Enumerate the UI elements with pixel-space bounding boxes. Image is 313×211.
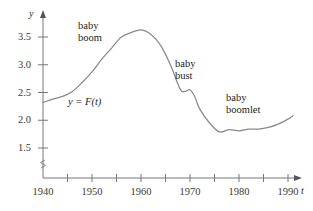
y-tick-label-3-0: 3.0	[7, 59, 31, 71]
x-tick-label-1990: 1990	[271, 186, 305, 198]
y-axis-arrow-icon	[40, 10, 46, 18]
annotation-baby-boomlet-line2: boomlet	[226, 104, 260, 116]
annotation-baby-bust-line1: baby	[175, 58, 195, 70]
y-axis-break-icon	[41, 160, 46, 168]
annotation-baby-boomlet: baby boomlet	[226, 92, 260, 117]
us-birth-rate-figure: y t 3.5 3.0 2.5 2.0 1.5 1940 1950 1960 1…	[0, 0, 313, 211]
x-axis-arrow-icon	[294, 175, 302, 181]
x-tick-label-1940: 1940	[26, 186, 60, 198]
annotation-baby-boom: baby boom	[78, 20, 102, 45]
annotation-baby-bust: baby bust	[175, 58, 195, 83]
x-tick-label-1950: 1950	[75, 186, 109, 198]
curve-equation-label: y = F(t)	[68, 96, 101, 108]
y-tick-label-1-5: 1.5	[7, 142, 31, 154]
x-tick-label-1960: 1960	[124, 186, 158, 198]
y-tick-label-2-5: 2.5	[7, 87, 31, 99]
annotation-baby-boomlet-line1: baby	[226, 92, 260, 104]
y-tick-label-2-0: 2.0	[7, 114, 31, 126]
annotation-baby-bust-line2: bust	[175, 70, 195, 82]
annotation-baby-boom-line1: baby	[78, 20, 102, 32]
x-tick-label-1970: 1970	[173, 186, 207, 198]
y-tick-label-3-5: 3.5	[7, 31, 31, 43]
chart-canvas	[0, 0, 313, 211]
x-tick-label-1980: 1980	[222, 186, 256, 198]
birth-rate-curve	[43, 30, 293, 132]
annotation-baby-boom-line2: boom	[78, 32, 102, 44]
y-axis-label: y	[29, 8, 33, 20]
